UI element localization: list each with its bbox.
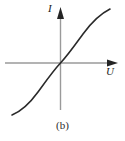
y-axis-label: I xyxy=(48,3,52,14)
figure-container: I U (b) xyxy=(0,0,125,141)
figure-caption: (b) xyxy=(0,119,125,132)
x-axis-label: U xyxy=(106,66,114,77)
y-axis-arrowhead-icon xyxy=(57,7,64,19)
